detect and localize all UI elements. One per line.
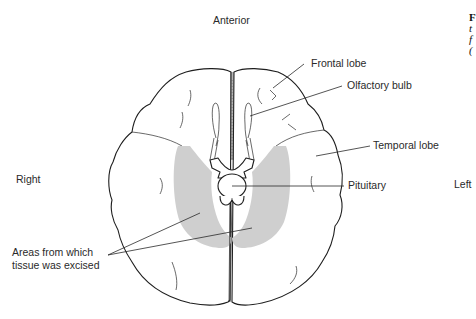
excised-areas-label-line2: tissue was excised [12,259,100,271]
right-side-label: Right [16,173,41,185]
caption-char-4: ( [469,45,476,56]
left-side-label: Left [454,178,472,190]
pituitary-label: Pituitary [348,179,386,191]
temporal-lobe-label: Temporal lobe [373,139,439,151]
excised-areas-label-line1: Areas from which [12,246,93,258]
frontal-lobe-label: Frontal lobe [311,57,366,69]
olfactory-bulb-label: Olfactory bulb [347,79,412,91]
figure-caption-fragment: F t f ( [469,12,476,56]
anterior-label: Anterior [213,14,250,26]
right-hemisphere-outline [109,69,231,306]
